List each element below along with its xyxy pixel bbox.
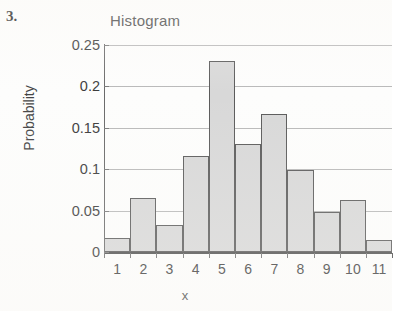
x-tick-label: 4 [183, 261, 209, 277]
x-tick-label: 9 [314, 261, 340, 277]
x-tick-mark [130, 253, 131, 258]
bar [104, 238, 130, 252]
x-tick-mark [340, 253, 341, 258]
bar [183, 156, 209, 252]
x-tick-mark [235, 253, 236, 258]
x-tick-label: 5 [209, 261, 235, 277]
x-tick-mark [104, 253, 105, 258]
y-tick-mark [104, 169, 109, 170]
x-tick-label: 7 [261, 261, 287, 277]
bar [366, 240, 392, 252]
x-tick-mark [261, 253, 262, 258]
x-tick-mark [183, 253, 184, 258]
y-tick-label: 0.2 [44, 78, 100, 94]
x-tick-mark [156, 253, 157, 258]
y-axis-tick-labels: 00.050.10.150.20.25 [42, 45, 100, 252]
bar [156, 225, 182, 252]
bar-series [104, 45, 392, 252]
y-tick-mark [104, 86, 109, 87]
y-tick-label: 0.1 [44, 161, 100, 177]
y-tick-mark [104, 45, 109, 46]
x-tick-mark [366, 253, 367, 258]
x-tick-mark [209, 253, 210, 258]
y-tick-label: 0 [44, 244, 100, 260]
y-tick-mark [104, 128, 109, 129]
bar [340, 200, 366, 252]
x-tick-mark [314, 253, 315, 258]
y-tick-mark [104, 211, 109, 212]
bar [130, 198, 156, 252]
y-tick-mark [104, 252, 109, 253]
x-tick-label: 2 [130, 261, 156, 277]
bar [235, 144, 261, 252]
x-tick-label: 6 [235, 261, 261, 277]
bar [314, 212, 340, 252]
bar [287, 170, 313, 252]
y-tick-label: 0.25 [44, 37, 100, 53]
bar [209, 61, 235, 252]
plot-area [104, 45, 392, 252]
x-tick-label: 10 [340, 261, 366, 277]
x-axis-line [104, 252, 392, 254]
y-tick-label: 0.05 [44, 203, 100, 219]
x-tick-label: 11 [366, 261, 392, 277]
y-axis-label: Probability [21, 58, 37, 178]
x-tick-label: 3 [157, 261, 183, 277]
bar [261, 114, 287, 252]
x-axis-label: x [105, 288, 265, 303]
x-tick-label: 1 [104, 261, 130, 277]
x-tick-label: 8 [288, 261, 314, 277]
x-tick-mark [287, 253, 288, 258]
y-axis-line [104, 44, 105, 253]
y-tick-label: 0.15 [44, 120, 100, 136]
chart-title: Histogram [110, 12, 390, 29]
